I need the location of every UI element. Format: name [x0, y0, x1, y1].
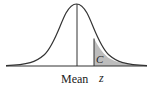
mean-label: Mean [61, 73, 88, 85]
normal-curve-figure: C Mean z [0, 0, 149, 86]
z-label: z [99, 72, 104, 84]
shaded-area-label: C [96, 54, 103, 65]
